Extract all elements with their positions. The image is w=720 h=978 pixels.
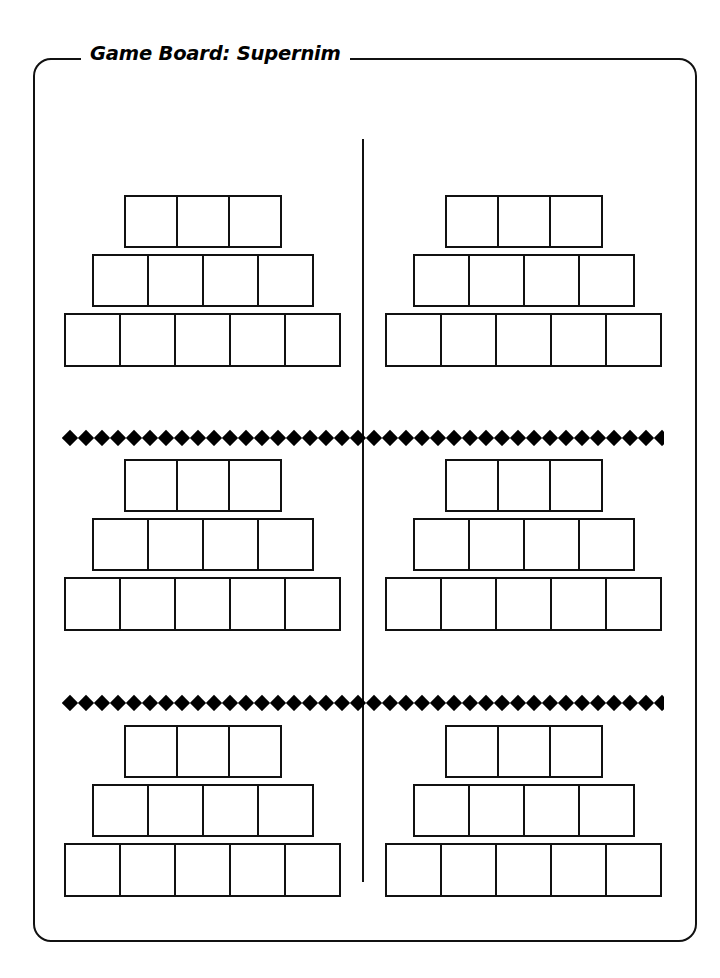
diamond-icon <box>222 429 238 445</box>
diamond-icon <box>654 694 664 710</box>
board-cell[interactable] <box>92 254 149 307</box>
board-cell[interactable] <box>445 459 499 512</box>
board-cell[interactable] <box>550 577 607 631</box>
board-cell[interactable] <box>202 254 259 307</box>
diamond-icon <box>542 694 558 710</box>
diamond-icon <box>254 694 270 710</box>
board-middle-right[interactable] <box>383 459 664 649</box>
board-cell[interactable] <box>549 725 603 778</box>
board-cell[interactable] <box>413 784 470 837</box>
board-cell[interactable] <box>229 577 286 631</box>
board-cell[interactable] <box>578 784 635 837</box>
board-cell[interactable] <box>202 518 259 571</box>
board-cell[interactable] <box>523 784 580 837</box>
diamond-icon <box>398 694 414 710</box>
board-cell[interactable] <box>228 725 282 778</box>
diamond-icon <box>430 694 446 710</box>
board-cell[interactable] <box>497 725 551 778</box>
board-cell[interactable] <box>468 518 525 571</box>
board-cell[interactable] <box>124 195 178 248</box>
board-row-bottom <box>383 843 664 897</box>
board-bottom-left[interactable] <box>62 725 343 915</box>
board-cell[interactable] <box>229 843 286 897</box>
board-cell[interactable] <box>605 577 662 631</box>
board-cell[interactable] <box>445 725 499 778</box>
board-cell[interactable] <box>495 577 552 631</box>
board-cell[interactable] <box>147 254 204 307</box>
board-cell[interactable] <box>147 518 204 571</box>
board-cell[interactable] <box>440 577 497 631</box>
board-cell[interactable] <box>257 784 314 837</box>
board-cell[interactable] <box>385 843 442 897</box>
diamond-icon <box>190 429 206 445</box>
board-middle-left[interactable] <box>62 459 343 649</box>
section-top <box>62 195 664 395</box>
board-cell[interactable] <box>495 843 552 897</box>
board-cell[interactable] <box>468 254 525 307</box>
board-cell[interactable] <box>228 195 282 248</box>
diamond-icon <box>94 429 110 445</box>
worksheet-border: Game Board: Supernim <box>33 58 697 942</box>
board-cell[interactable] <box>119 843 176 897</box>
board-cell[interactable] <box>174 313 231 367</box>
board-bottom-right[interactable] <box>383 725 664 915</box>
board-cell[interactable] <box>578 518 635 571</box>
board-cell[interactable] <box>413 518 470 571</box>
board-cell[interactable] <box>440 313 497 367</box>
board-cell[interactable] <box>468 784 525 837</box>
board-cell[interactable] <box>229 313 286 367</box>
diamond-icon <box>126 694 142 710</box>
board-cell[interactable] <box>413 254 470 307</box>
board-cell[interactable] <box>257 254 314 307</box>
board-cell[interactable] <box>147 784 204 837</box>
board-cell[interactable] <box>119 577 176 631</box>
board-cell[interactable] <box>523 518 580 571</box>
board-cell[interactable] <box>257 518 314 571</box>
board-cell[interactable] <box>176 725 230 778</box>
board-cell[interactable] <box>64 843 121 897</box>
board-cell[interactable] <box>497 459 551 512</box>
diamond-icon <box>558 694 574 710</box>
board-cell[interactable] <box>119 313 176 367</box>
board-cell[interactable] <box>92 518 149 571</box>
board-cell[interactable] <box>64 313 121 367</box>
board-cell[interactable] <box>549 195 603 248</box>
board-cell[interactable] <box>202 784 259 837</box>
board-top-left[interactable] <box>62 195 343 385</box>
diamond-icon <box>446 694 462 710</box>
board-cell[interactable] <box>284 843 341 897</box>
diamond-icon <box>158 429 174 445</box>
diamond-icon <box>350 429 366 445</box>
board-cell[interactable] <box>440 843 497 897</box>
board-cell[interactable] <box>549 459 603 512</box>
board-cell[interactable] <box>445 195 499 248</box>
board-cell[interactable] <box>176 195 230 248</box>
diamond-icon <box>206 694 222 710</box>
board-cell[interactable] <box>605 313 662 367</box>
board-cell[interactable] <box>284 313 341 367</box>
board-cell[interactable] <box>64 577 121 631</box>
diamond-icon <box>78 694 94 710</box>
board-cell[interactable] <box>385 313 442 367</box>
board-cell[interactable] <box>385 577 442 631</box>
board-cell[interactable] <box>550 843 607 897</box>
diamond-icon <box>478 694 494 710</box>
board-cell[interactable] <box>92 784 149 837</box>
board-cell[interactable] <box>176 459 230 512</box>
board-cell[interactable] <box>550 313 607 367</box>
board-cell[interactable] <box>124 459 178 512</box>
diamond-icon <box>174 429 190 445</box>
board-top-right[interactable] <box>383 195 664 385</box>
board-cell[interactable] <box>284 577 341 631</box>
board-cell[interactable] <box>174 843 231 897</box>
board-cell[interactable] <box>124 725 178 778</box>
board-cell[interactable] <box>523 254 580 307</box>
board-cell[interactable] <box>578 254 635 307</box>
board-cell[interactable] <box>228 459 282 512</box>
board-cell[interactable] <box>174 577 231 631</box>
board-cell[interactable] <box>497 195 551 248</box>
diamond-icon <box>430 429 446 445</box>
board-row-top <box>62 725 343 778</box>
board-cell[interactable] <box>605 843 662 897</box>
board-cell[interactable] <box>495 313 552 367</box>
